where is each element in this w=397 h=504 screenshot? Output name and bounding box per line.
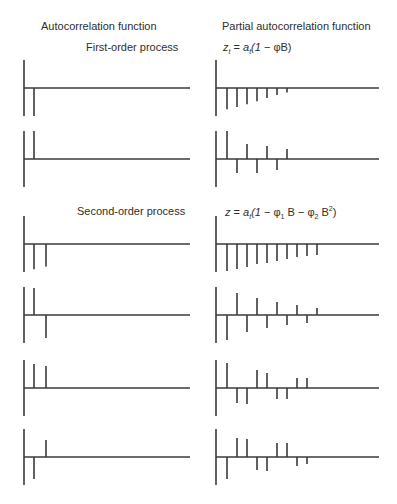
correlogram-plots: [0, 0, 397, 504]
